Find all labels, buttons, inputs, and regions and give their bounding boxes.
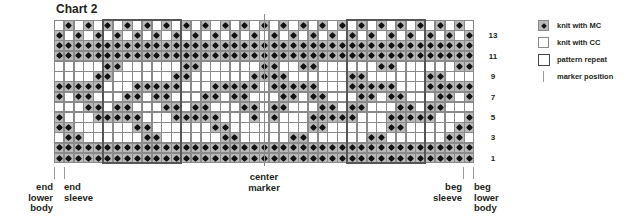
- stitch-cc: [201, 122, 211, 133]
- stitch-cc: [132, 20, 142, 31]
- marker-position-swatch-icon: [538, 71, 549, 82]
- beg-sleeve-tick: [463, 167, 464, 179]
- stitch-mc: [181, 51, 191, 62]
- stitch-cc: [376, 122, 386, 133]
- stitch-cc: [415, 102, 425, 113]
- stitch-mc: [337, 51, 347, 62]
- stitch-mc: [406, 153, 416, 164]
- stitch-mc: [464, 112, 474, 123]
- stitch-mc: [230, 40, 240, 51]
- stitch-cc: [288, 61, 298, 72]
- stitch-mc: [406, 30, 416, 41]
- stitch-mc: [152, 51, 162, 62]
- stitch-mc: [396, 112, 406, 123]
- stitch-mc: [113, 40, 123, 51]
- stitch-mc: [74, 153, 84, 164]
- stitch-mc: [406, 112, 416, 123]
- stitch-cc: [327, 20, 337, 31]
- stitch-cc: [230, 71, 240, 82]
- stitch-mc: [54, 122, 64, 133]
- stitch-cc: [142, 61, 152, 72]
- stitch-cc: [376, 92, 386, 103]
- stitch-mc: [132, 51, 142, 62]
- stitch-mc: [357, 71, 367, 82]
- stitch-cc: [83, 122, 93, 133]
- stitch-cc: [113, 92, 123, 103]
- stitch-mc: [318, 143, 328, 154]
- stitch-mc: [93, 143, 103, 154]
- stitch-cc: [161, 132, 171, 143]
- stitch-mc: [279, 71, 289, 82]
- stitch-cc: [93, 132, 103, 143]
- stitch-cc: [327, 122, 337, 133]
- center-marker-line: [264, 14, 265, 166]
- stitch-mc: [396, 143, 406, 154]
- stitch-mc: [454, 153, 464, 164]
- stitch-mc: [93, 81, 103, 92]
- stitch-mc: [113, 102, 123, 113]
- end-sleeve-label: end sleeve: [64, 182, 93, 203]
- stitch-mc: [337, 20, 347, 31]
- stitch-cc: [308, 71, 318, 82]
- stitch-cc: [425, 122, 435, 133]
- stitch-mc: [103, 20, 113, 31]
- stitch-cc: [415, 61, 425, 72]
- stitch-mc: [386, 153, 396, 164]
- stitch-mc: [171, 153, 181, 164]
- stitch-cc: [93, 92, 103, 103]
- stitch-cc: [122, 71, 132, 82]
- stitch-cc: [396, 61, 406, 72]
- stitch-mc: [308, 153, 318, 164]
- stitch-mc: [288, 143, 298, 154]
- stitch-mc: [298, 81, 308, 92]
- stitch-mc: [210, 143, 220, 154]
- stitch-mc: [210, 92, 220, 103]
- stitch-mc: [269, 71, 279, 82]
- stitch-mc: [74, 40, 84, 51]
- stitch-mc: [425, 40, 435, 51]
- stitch-mc: [171, 30, 181, 41]
- stitch-mc: [74, 132, 84, 143]
- stitch-mc: [454, 132, 464, 143]
- stitch-cc: [181, 30, 191, 41]
- stitch-cc: [191, 20, 201, 31]
- stitch-cc: [152, 102, 162, 113]
- stitch-cc: [464, 132, 474, 143]
- stitch-mc: [142, 122, 152, 133]
- stitch-cc: [132, 71, 142, 82]
- stitch-mc: [435, 51, 445, 62]
- stitch-mc: [83, 20, 93, 31]
- stitch-mc: [64, 153, 74, 164]
- stitch-mc: [396, 92, 406, 103]
- stitch-mc: [357, 81, 367, 92]
- stitch-cc: [367, 112, 377, 123]
- stitch-cc: [103, 92, 113, 103]
- stitch-mc: [201, 153, 211, 164]
- stitch-mc: [230, 143, 240, 154]
- stitch-cc: [367, 71, 377, 82]
- stitch-cc: [415, 81, 425, 92]
- stitch-cc: [288, 112, 298, 123]
- stitch-mc: [376, 132, 386, 143]
- stitch-cc: [327, 71, 337, 82]
- stitch-mc: [210, 112, 220, 123]
- stitch-mc: [464, 153, 474, 164]
- stitch-mc: [396, 102, 406, 113]
- stitch-mc: [93, 51, 103, 62]
- stitch-cc: [279, 61, 289, 72]
- stitch-mc: [230, 30, 240, 41]
- stitch-mc: [210, 81, 220, 92]
- stitch-mc: [357, 40, 367, 51]
- stitch-mc: [445, 30, 455, 41]
- stitch-mc: [220, 20, 230, 31]
- stitch-cc: [103, 122, 113, 133]
- stitch-mc: [367, 40, 377, 51]
- stitch-mc: [103, 40, 113, 51]
- stitch-cc: [161, 122, 171, 133]
- stitch-mc: [454, 61, 464, 72]
- stitch-mc: [132, 92, 142, 103]
- stitch-cc: [152, 61, 162, 72]
- stitch-mc: [191, 112, 201, 123]
- stitch-cc: [93, 122, 103, 133]
- stitch-cc: [132, 132, 142, 143]
